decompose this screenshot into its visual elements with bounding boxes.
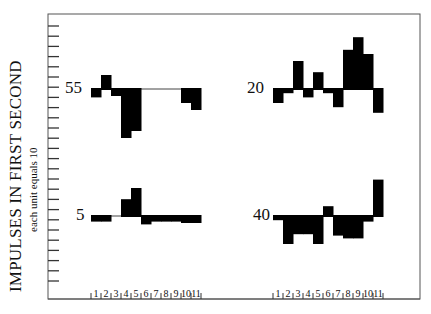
bar [353, 215, 364, 238]
x-tick-label: 1 [94, 288, 99, 299]
bar [313, 72, 324, 90]
bar [303, 215, 314, 234]
bar [141, 215, 152, 224]
x-tick-label: 10 [181, 288, 191, 299]
bar [343, 215, 354, 238]
bar [101, 75, 112, 90]
bar-panels [91, 37, 384, 244]
bar [121, 88, 132, 138]
bar [323, 206, 334, 217]
bar [353, 37, 364, 90]
bar [111, 88, 122, 96]
bar [323, 88, 334, 93]
x-tick-label: 11 [191, 288, 201, 299]
x-tick-label: 6 [326, 288, 331, 299]
panel-top-right [273, 37, 384, 113]
x-axis: 12345678910111234567891011 [48, 288, 420, 299]
panel-bottom-left [91, 188, 202, 224]
y-axis-title: IMPULSES IN FIRST SECOND [6, 60, 26, 292]
x-tick-label: 2 [286, 288, 291, 299]
x-tick-label: 1 [276, 288, 281, 299]
bar [273, 88, 284, 103]
x-tick-label: 7 [336, 288, 341, 299]
bar [101, 215, 112, 222]
x-axis-left: 1234567891011 [91, 288, 201, 299]
x-tick-label: 4 [124, 288, 129, 299]
x-tick-label: 11 [373, 288, 383, 299]
bar [303, 88, 314, 97]
bar [191, 215, 202, 223]
bar [283, 88, 294, 93]
bar [181, 215, 192, 223]
x-tick-label: 3 [114, 288, 119, 299]
y-axis-ticks [48, 26, 59, 281]
bar [91, 88, 102, 97]
x-tick-label: 9 [356, 288, 361, 299]
x-tick-label: 9 [174, 288, 179, 299]
panel-top-left [91, 75, 202, 138]
bar [121, 199, 132, 217]
bar [161, 215, 172, 222]
bar [283, 215, 294, 244]
x-tick-label: 4 [306, 288, 311, 299]
x-tick-label: 3 [296, 288, 301, 299]
panel-label-bottom-right: 40 [253, 205, 270, 225]
bar [191, 88, 202, 110]
panel-label-top-left: 55 [65, 78, 82, 98]
panel-bottom-right [273, 180, 384, 244]
bar [181, 88, 192, 103]
bar [373, 88, 384, 113]
x-axis-right: 1234567891011 [273, 288, 383, 299]
x-tick-label: 5 [134, 288, 139, 299]
panel-label-bottom-left: 5 [76, 205, 85, 225]
x-tick-label: 6 [144, 288, 149, 299]
bar [333, 88, 344, 107]
bar [313, 215, 324, 244]
x-tick-label: 7 [154, 288, 159, 299]
bar [131, 88, 142, 131]
bar [293, 61, 304, 90]
bar [131, 188, 142, 217]
bar [363, 215, 374, 222]
bar [363, 54, 374, 90]
x-tick-label: 5 [316, 288, 321, 299]
x-tick-label: 8 [164, 288, 169, 299]
x-tick-label: 2 [104, 288, 109, 299]
bar [171, 215, 182, 222]
panel-label-top-right: 20 [247, 78, 264, 98]
bar [91, 215, 102, 222]
bar [273, 215, 284, 220]
x-tick-label: 8 [346, 288, 351, 299]
x-tick-label: 10 [363, 288, 373, 299]
bar [293, 215, 304, 234]
y-axis-subtitle: each unit equals 10 [27, 147, 39, 232]
bar [333, 215, 344, 236]
chart-figure: 12345678910111234567891011 [0, 0, 431, 314]
bar [151, 215, 162, 222]
bar [343, 50, 354, 90]
bar [373, 180, 384, 217]
